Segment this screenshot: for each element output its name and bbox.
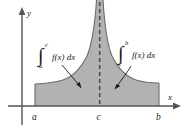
y-axis-arrowhead (19, 7, 26, 15)
figure-canvas: y x a c b ∫ c a f(x) dx ∫ b c f(x) dx (0, 0, 192, 137)
right-integral-lower-limit: c (119, 60, 122, 67)
x-axis-label: x (167, 92, 172, 102)
tick-label-c: c (97, 112, 102, 122)
tick-label-b: b (156, 112, 161, 122)
x-axis-arrowhead (173, 103, 181, 110)
right-integral-integrand: f(x) dx (132, 50, 155, 60)
left-integral-integrand: f(x) dx (52, 52, 75, 62)
left-integral-lower-limit: a (39, 62, 42, 69)
improper-integral-figure: y x a c b ∫ c a f(x) dx ∫ b c f(x) dx (0, 0, 192, 137)
tick-label-a: a (32, 112, 37, 122)
y-axis-label: y (26, 8, 31, 18)
right-integral-upper-limit: b (125, 39, 129, 46)
left-integral-upper-limit: c (45, 41, 48, 48)
